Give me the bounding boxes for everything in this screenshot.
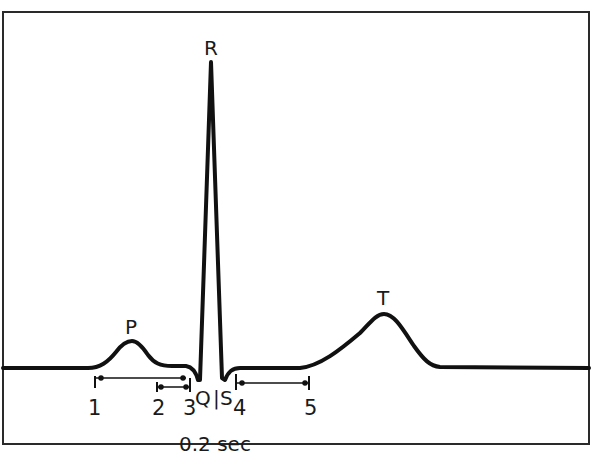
qs-divider: | [213,388,220,408]
marker-5: 5 [304,398,317,419]
ecg-trace [3,62,589,380]
interval-pr-segment [157,378,190,392]
marker-4: 4 [233,398,246,419]
marker-1: 1 [88,398,101,419]
interval-st-segment [236,374,309,390]
label-p-wave: P [125,317,137,337]
label-s-wave: S [220,388,233,408]
label-t-wave: T [377,288,389,308]
label-r-wave: R [204,38,218,58]
diagram-frame [3,12,589,444]
label-q-wave: Q [195,388,211,408]
time-scale-label: 0.2 sec [179,434,251,454]
marker-2: 2 [152,398,165,419]
interval-pr [95,376,186,388]
